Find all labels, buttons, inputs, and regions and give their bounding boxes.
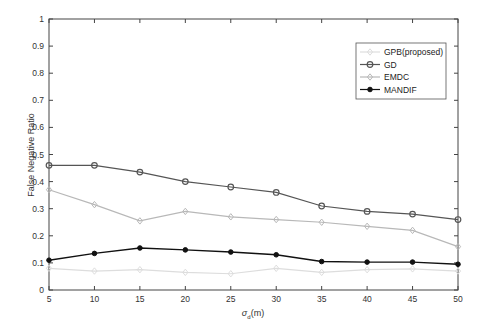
x-axis-label: σd(m) [242,308,264,320]
y-tick-label: 0.3 [32,204,44,214]
legend-label: GD [384,60,397,70]
series-line [49,165,458,219]
filled-circle-marker [456,262,461,267]
filled-circle-marker [274,252,279,257]
filled-circle-marker [319,259,324,264]
filled-circle-marker [368,87,373,92]
filled-circle-marker [410,260,415,265]
y-tick-label: 1 [39,14,44,24]
y-tick-label: 0 [39,285,44,295]
series-gpb-proposed [46,265,460,277]
series-gd [46,163,461,223]
series-emdc [46,187,460,250]
filled-circle-marker [138,246,143,251]
x-tick-label: 50 [453,294,463,304]
series-mandif [47,246,461,267]
plot-series [46,163,461,277]
legend-label: MANDIF [384,85,417,95]
x-tick-label: 5 [47,294,52,304]
filled-circle-marker [228,250,233,255]
legend: GPB(proposed)GDEMDCMANDIF [356,43,446,99]
x-tick-label: 40 [362,294,372,304]
x-tick-label: 25 [226,294,236,304]
x-tick-label: 45 [408,294,418,304]
x-tick-label: 15 [135,294,145,304]
series-line [49,248,458,264]
y-tick-label: 0.1 [32,258,44,268]
y-axis-label: False Negative Ratio [26,113,36,197]
filled-circle-marker [92,251,97,256]
filled-circle-marker [183,248,188,253]
series-line [49,190,458,247]
y-tick-label: 0.8 [32,68,44,78]
legend-label: EMDC [384,72,409,82]
line-chart: 510152025303540455000.10.20.30.40.50.60.… [0,0,482,332]
y-tick-label: 0.9 [32,41,44,51]
x-axis-label-unit: (m) [251,308,265,318]
x-tick-label: 10 [90,294,100,304]
filled-circle-marker [365,260,370,265]
filled-circle-marker [47,258,52,263]
x-tick-label: 35 [317,294,327,304]
legend-label: GPB(proposed) [384,47,443,57]
series-line [49,268,458,273]
x-tick-label: 30 [271,294,281,304]
x-tick-label: 20 [181,294,191,304]
y-tick-label: 0.2 [32,231,44,241]
y-tick-label: 0.7 [32,95,44,105]
